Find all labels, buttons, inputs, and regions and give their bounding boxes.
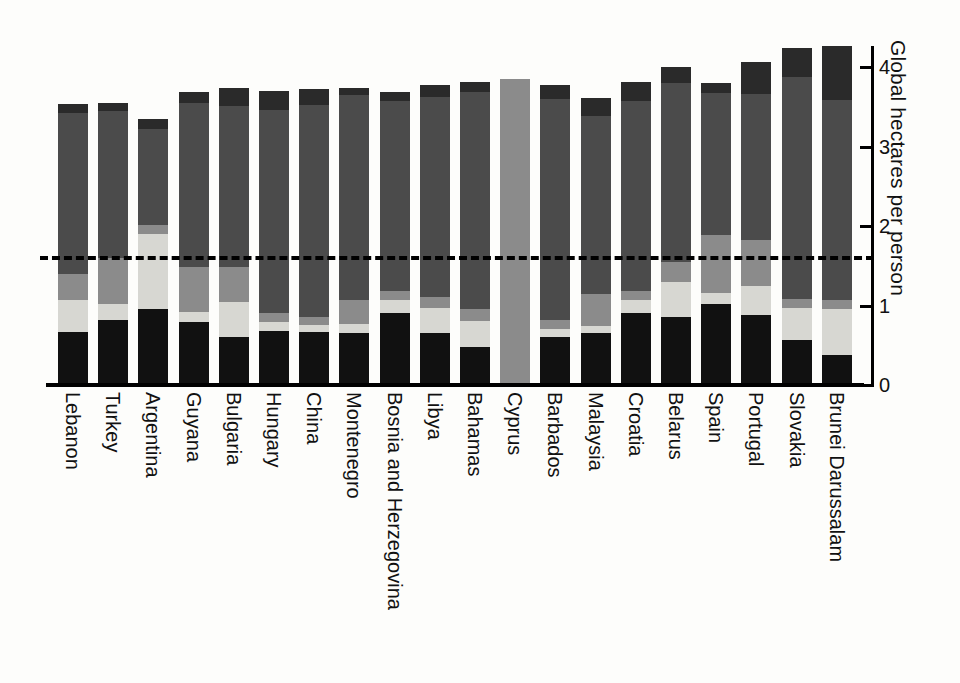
bar-segment-grazing-land [701, 235, 731, 293]
bar-segment-forest-and-fishing-grounds [380, 101, 410, 291]
y-axis-title: Global hectares per person [886, 40, 910, 380]
bar-segment-built-up-land [219, 337, 249, 385]
bar-china[interactable] [299, 89, 329, 385]
bar-lebanon[interactable] [58, 104, 88, 385]
bar-segment-built-up-land [460, 347, 490, 385]
bar-segment-built-up-land [540, 337, 570, 385]
x-label-text: Montenegro [344, 392, 364, 499]
bar-segment-carbon-footprint-top [138, 119, 168, 129]
bar-segment-built-up-land [339, 333, 369, 385]
bar-segment-forest-and-fishing-grounds [540, 99, 570, 320]
bar-segment-forest-and-fishing-grounds [339, 95, 369, 300]
bar-hungary[interactable] [259, 91, 289, 385]
bar-segment-forest-and-fishing-grounds [259, 110, 289, 314]
bar-segment-built-up-land [782, 340, 812, 385]
bar-segment-cropland [741, 286, 771, 315]
bar-segment-grazing-land [380, 291, 410, 300]
bar-segment-grazing-land [58, 274, 88, 300]
bar-belarus[interactable] [661, 67, 691, 385]
bar-segment-cropland [581, 326, 611, 332]
x-label-text: Belarus [666, 392, 686, 460]
bar-segment-carbon-footprint-top [782, 48, 812, 77]
bar-segment-grazing-land [540, 320, 570, 329]
bar-segment-forest-and-fishing-grounds [179, 103, 209, 267]
bar-segment-carbon-footprint-top [661, 67, 691, 83]
bar-segment-built-up-land [420, 333, 450, 385]
bar-croatia[interactable] [621, 82, 651, 385]
bar-segment-cropland [339, 324, 369, 333]
bar-segment-forest-and-fishing-grounds [581, 116, 611, 294]
plot-area [48, 40, 863, 385]
bar-segment-forest-and-fishing-grounds [782, 77, 812, 300]
bar-spain[interactable] [701, 83, 731, 385]
threshold-dashed-line [40, 256, 874, 260]
bar-segment-cropland [299, 325, 329, 331]
bar-segment-forest-and-fishing-grounds [701, 93, 731, 235]
x-label-text: Portugal [746, 392, 766, 467]
bar-montenegro[interactable] [339, 88, 369, 385]
x-label-text: Cyprus [505, 392, 525, 455]
bar-libya[interactable] [420, 85, 450, 386]
bar-segment-grazing-land [219, 267, 249, 301]
bar-segment-built-up-land [58, 332, 88, 385]
x-label-text: Bahamas [465, 392, 485, 477]
bar-segment-forest-and-fishing-grounds [420, 97, 450, 297]
bar-barbados[interactable] [540, 85, 570, 385]
bar-segment-carbon-footprint-top [420, 85, 450, 98]
bar-segment-carbon-footprint-top [581, 98, 611, 116]
bar-segment-carbon-footprint-top [179, 92, 209, 102]
bar-segment-forest-and-fishing-grounds [741, 94, 771, 240]
y-tick-1 [860, 305, 874, 308]
bar-slovakia[interactable] [782, 48, 812, 385]
bar-segment-grazing-land [782, 299, 812, 308]
bar-segment-cropland [701, 293, 731, 304]
bar-segment-grazing-land [581, 294, 611, 326]
bar-portugal[interactable] [741, 62, 771, 385]
bar-segment-carbon-footprint-top [259, 91, 289, 110]
bar-malaysia[interactable] [581, 98, 611, 385]
bar-segment-forest-and-fishing-grounds [460, 92, 490, 310]
bar-segment-forest-and-fishing-grounds [98, 111, 128, 258]
bar-bahamas[interactable] [460, 82, 490, 385]
bar-guyana[interactable] [179, 92, 209, 385]
x-label-text: Guyana [184, 392, 204, 462]
x-label-text: Argentina [143, 392, 163, 478]
bar-segment-built-up-land [581, 333, 611, 385]
bar-argentina[interactable] [138, 119, 168, 385]
bar-segment-cropland [460, 321, 490, 346]
x-label-text: Brunei Darussalam [827, 392, 847, 562]
bar-segment-cropland [219, 302, 249, 338]
bar-segment-cropland [661, 282, 691, 318]
bar-segment-cropland [380, 300, 410, 314]
bar-segment-carbon-footprint-top [219, 88, 249, 105]
x-axis-category-labels: LebanonTurkeyArgentinaGuyanaBulgariaHung… [48, 392, 863, 622]
bar-segment-grazing-land [460, 309, 490, 321]
bar-turkey[interactable] [98, 103, 128, 385]
bar-segment-carbon-footprint-top [98, 103, 128, 111]
bar-segment-built-up-land [701, 304, 731, 385]
x-label-text: Bosnia and Herzegovina [385, 392, 405, 610]
bar-segment-grazing-land [259, 313, 289, 322]
y-tick-2 [860, 225, 874, 228]
bar-segment-cropland [621, 300, 651, 314]
x-label-text: China [304, 392, 324, 444]
x-label-text: Slovakia [787, 392, 807, 468]
bar-segment-built-up-land [621, 313, 651, 385]
x-label-text: Lebanon [63, 392, 83, 470]
bar-segment-built-up-land [380, 313, 410, 385]
x-label-text: Barbados [545, 392, 565, 478]
bar-segment-carbon-footprint-top [339, 88, 369, 95]
bar-segment-cropland [540, 329, 570, 338]
bar-segment-built-up-land [98, 320, 128, 385]
bar-segment-grazing-land [179, 267, 209, 312]
x-label-text: Hungary [264, 392, 284, 468]
bar-bulgaria[interactable] [219, 88, 249, 385]
y-tick-4 [860, 66, 874, 69]
bar-segment-grazing-land [741, 240, 771, 286]
bar-segment-forest-and-fishing-grounds [822, 100, 852, 300]
bar-brunei-darussalam[interactable] [822, 46, 852, 385]
bar-bosnia-and-herzegovina[interactable] [380, 92, 410, 385]
bar-cyprus[interactable] [500, 79, 530, 385]
bar-segment-carbon-footprint-top [540, 85, 570, 99]
bar-segment-built-up-land [822, 355, 852, 385]
